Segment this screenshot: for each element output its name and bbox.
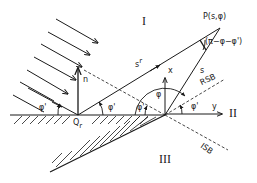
angle-at-p-label: (π−φ−φ') [205,38,242,46]
isb-line [165,115,228,150]
rsb-angle-label: φ' [191,103,198,111]
region-2-label: II [229,107,237,119]
region-3-label: III [159,153,171,165]
reflected-angle-label: φ' [108,104,115,112]
wedge-diffraction-diagram [0,0,257,183]
point-q-label: Qr [73,119,82,130]
incident-angle-label: φ' [39,104,46,112]
wedge-lower-face [50,115,165,172]
edge-incident-angle-label: φ' [137,104,144,112]
reflected-path-label: sr [135,58,142,69]
incident-ray-to-q [28,88,78,115]
normal-label: n [83,76,88,84]
region-1-label: I [142,15,146,27]
direct-path-label: s [200,67,204,75]
x-axis-label: x [168,67,173,75]
point-p-label: P(s,φ) [203,13,226,21]
observation-angle-label: φ [156,91,161,99]
incident-rays [13,19,98,112]
incident-extension-dashed [84,70,165,115]
y-axis-label: y [212,103,217,111]
